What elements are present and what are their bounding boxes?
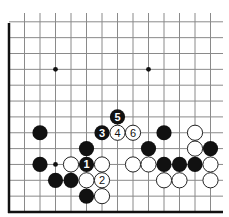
black-stone-icon: [32, 125, 47, 140]
white-stone-move-4: 4: [110, 125, 125, 140]
white-stone-icon: [94, 157, 109, 172]
black-stone-icon: [172, 157, 187, 172]
white-stone-icon: [94, 189, 109, 204]
white-stone: [203, 173, 218, 188]
black-stone-move-3: 3: [94, 125, 109, 140]
move-number: 5: [114, 111, 120, 123]
move-number: 3: [99, 127, 105, 139]
white-stone-icon: [141, 157, 156, 172]
white-stone: [187, 125, 202, 140]
black-stone-move-1: 1: [79, 157, 94, 172]
black-stone-icon: [156, 125, 171, 140]
black-stone: [48, 173, 63, 188]
black-stone: [187, 157, 202, 172]
white-stone: [141, 157, 156, 172]
black-stone: [156, 157, 171, 172]
white-stone-icon: [79, 173, 94, 188]
move-number: 4: [114, 127, 120, 139]
move-number: 6: [130, 127, 136, 139]
white-stone: [125, 157, 140, 172]
white-stone: [156, 173, 171, 188]
white-stone: [94, 189, 109, 204]
stones: 134562: [32, 109, 218, 203]
black-stone: [32, 157, 47, 172]
black-stone-icon: [156, 157, 171, 172]
black-stone: [172, 157, 187, 172]
white-stone: [79, 173, 94, 188]
move-number: 2: [99, 174, 105, 186]
star-point-icon: [53, 67, 58, 72]
white-stone-icon: [187, 125, 202, 140]
black-stone-move-5: 5: [110, 109, 125, 124]
black-stone: [63, 173, 78, 188]
black-stone-icon: [63, 173, 78, 188]
black-stone-icon: [32, 157, 47, 172]
black-stone: [79, 141, 94, 156]
white-stone-icon: [187, 141, 202, 156]
black-stone-icon: [187, 157, 202, 172]
black-stone: [203, 141, 218, 156]
star-point-icon: [146, 67, 151, 72]
black-stone: [32, 125, 47, 140]
black-stone-icon: [79, 141, 94, 156]
move-number: 1: [83, 158, 89, 170]
go-board: 134562: [0, 0, 229, 217]
black-stone: [79, 189, 94, 204]
white-stone-move-2: 2: [94, 173, 109, 188]
white-stone-icon: [125, 157, 140, 172]
black-stone: [141, 141, 156, 156]
black-stone: [156, 125, 171, 140]
white-stone-icon: [203, 157, 218, 172]
white-stone: [63, 157, 78, 172]
white-stone-icon: [156, 173, 171, 188]
white-stone-icon: [172, 173, 187, 188]
white-stone-icon: [63, 157, 78, 172]
white-stone: [94, 157, 109, 172]
black-stone-icon: [141, 141, 156, 156]
white-stone: [203, 157, 218, 172]
black-stone-icon: [48, 173, 63, 188]
white-stone: [172, 173, 187, 188]
white-stone-icon: [203, 173, 218, 188]
star-point-icon: [53, 162, 58, 167]
black-stone-icon: [203, 141, 218, 156]
black-stone-icon: [79, 189, 94, 204]
white-stone-move-6: 6: [125, 125, 140, 140]
white-stone: [187, 141, 202, 156]
